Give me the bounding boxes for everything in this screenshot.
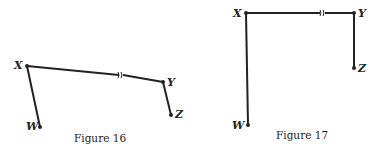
point-x [25, 64, 29, 68]
label-x: X [13, 59, 23, 72]
segment-xw [246, 13, 248, 125]
label-y: Y [358, 7, 367, 20]
break-mark [118, 72, 122, 78]
label-w: W [232, 119, 246, 132]
diagram-canvas: X Y Z W Figure 16 X Y Z W Figure 17 [0, 0, 377, 151]
label-z: Z [357, 62, 367, 75]
point-y [352, 11, 356, 15]
point-z [352, 66, 356, 70]
break-mark [320, 10, 324, 16]
segment-xw [27, 66, 40, 127]
label-y: Y [167, 76, 176, 89]
segment-xy-right [123, 75, 163, 82]
point-y [161, 80, 165, 84]
label-z: Z [174, 108, 184, 121]
point-z [169, 113, 173, 117]
point-w [38, 125, 42, 129]
figure-16: X Y Z W Figure 16 [13, 59, 184, 144]
point-w [246, 123, 250, 127]
figure-17: X Y Z W Figure 17 [232, 7, 367, 141]
figure-caption: Figure 16 [74, 132, 126, 144]
point-x [244, 11, 248, 15]
diagram-page: X Y Z W Figure 16 X Y Z W Figure 17 [0, 0, 377, 151]
label-x: X [232, 7, 242, 20]
figure-caption: Figure 17 [276, 129, 328, 141]
segment-xy-left [27, 66, 119, 75]
label-w: W [26, 120, 40, 133]
